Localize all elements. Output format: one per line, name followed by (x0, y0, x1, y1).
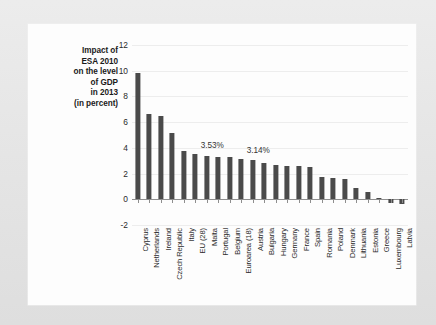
bar[interactable] (181, 151, 186, 199)
bar-slot (213, 45, 225, 225)
bar-slot (293, 45, 305, 225)
y-tick-label: 2 (123, 169, 128, 179)
bar-slot (351, 45, 363, 225)
x-tick-mark (287, 199, 288, 203)
x-axis-category-label: Euroarea (18) (244, 228, 253, 274)
x-tick-mark (391, 199, 392, 203)
x-tick-mark (230, 199, 231, 203)
x-tick-mark (276, 199, 277, 203)
bar[interactable] (239, 159, 244, 199)
x-axis-category-label: Hungary (279, 228, 288, 256)
bar[interactable] (170, 133, 175, 199)
bar[interactable] (319, 177, 324, 199)
x-axis-category-label: Poland (336, 228, 345, 251)
x-axis-category-label: Estonia (371, 228, 380, 253)
plot-area: 121086420-2 3.53%3.14% (132, 45, 408, 225)
x-axis-category-label: Lithuania (359, 228, 368, 258)
bar[interactable] (158, 116, 163, 200)
x-axis-category-label: Austria (256, 228, 265, 251)
y-axis-title-line-4: of GDP (30, 78, 118, 89)
x-axis-category-label: Netherlands (152, 228, 161, 268)
bar-slot (374, 45, 386, 225)
bar-slot (224, 45, 236, 225)
bar[interactable] (216, 157, 221, 199)
bar[interactable] (135, 73, 140, 199)
x-axis-category-label: France (302, 228, 311, 251)
y-tick-label: 0 (123, 194, 128, 204)
x-tick-mark (184, 199, 185, 203)
bar-slot (316, 45, 328, 225)
y-tick-label: 4 (123, 143, 128, 153)
bar[interactable] (365, 192, 370, 200)
bar-slot (178, 45, 190, 225)
x-tick-mark (218, 199, 219, 203)
bar[interactable] (227, 157, 232, 199)
x-axis-category-label: Czech Republic (175, 228, 184, 280)
bar-slot (270, 45, 282, 225)
x-tick-mark (368, 199, 369, 203)
bar-slot (339, 45, 351, 225)
y-axis-title-line-6: (in percent) (30, 99, 118, 110)
x-axis-category-label: Italy (187, 228, 196, 241)
bar[interactable] (262, 163, 267, 199)
y-tick-label: 8 (123, 91, 128, 101)
bar[interactable] (342, 179, 347, 199)
bar[interactable] (193, 154, 198, 199)
value-annotation: 3.14% (247, 146, 270, 155)
x-axis-category-label: Ireland (164, 228, 173, 251)
x-axis-category-label: Portugal (221, 228, 230, 255)
x-axis-category-label: Spain (313, 228, 322, 247)
bar-slot (155, 45, 167, 225)
bar[interactable] (285, 166, 290, 199)
bar-slot (305, 45, 317, 225)
bar-slot (132, 45, 144, 225)
bar-slot (282, 45, 294, 225)
x-tick-mark (195, 199, 196, 203)
bars-group (132, 45, 408, 225)
bar[interactable] (296, 166, 301, 199)
bar[interactable] (354, 188, 359, 200)
y-axis-title-line-5: in 2013 (30, 88, 118, 99)
x-axis-category-label: Latvia (405, 228, 414, 248)
bar-slot (362, 45, 374, 225)
bar[interactable] (331, 178, 336, 199)
x-axis-category-label: Bulgaria (267, 228, 276, 255)
bar-slot (236, 45, 248, 225)
x-axis-category-label: Cyprus (141, 228, 150, 251)
bar-slot (328, 45, 340, 225)
y-axis-title-line-2: ESA 2010 (30, 57, 118, 68)
gridline: -2 (132, 225, 408, 226)
value-annotation: 3.53% (201, 141, 224, 150)
y-tick-label: 12 (119, 40, 128, 50)
figure-card: Impact of ESA 2010 on the level of GDP i… (28, 24, 416, 305)
bar-chart: Impact of ESA 2010 on the level of GDP i… (28, 24, 416, 305)
x-tick-mark (356, 199, 357, 203)
x-axis-category-label: EU (28) (198, 228, 207, 253)
x-axis-category-label: Greece (382, 228, 391, 252)
x-axis-category-label: Luxembourg (394, 228, 403, 269)
bar[interactable] (147, 114, 152, 200)
x-tick-mark (138, 199, 139, 203)
x-tick-mark (253, 199, 254, 203)
bar-slot (167, 45, 179, 225)
x-axis-category-label: Malta (210, 228, 219, 246)
y-tick-label: -2 (121, 220, 128, 230)
bar-slot (385, 45, 397, 225)
y-axis-title: Impact of ESA 2010 on the level of GDP i… (30, 46, 118, 110)
bar[interactable] (250, 160, 255, 199)
x-tick-mark (402, 199, 403, 203)
x-axis-category-label: Romania (325, 228, 334, 258)
x-tick-mark (207, 199, 208, 203)
bar[interactable] (273, 165, 278, 199)
x-tick-mark (322, 199, 323, 203)
x-tick-mark (149, 199, 150, 203)
bar[interactable] (308, 167, 313, 199)
y-axis-title-line-3: on the level (30, 67, 118, 78)
bar[interactable] (204, 156, 209, 199)
x-tick-mark (345, 199, 346, 203)
bar-slot (144, 45, 156, 225)
x-tick-mark (241, 199, 242, 203)
x-tick-mark (161, 199, 162, 203)
bar-slot (259, 45, 271, 225)
x-axis-category-label: Germany (290, 228, 299, 259)
